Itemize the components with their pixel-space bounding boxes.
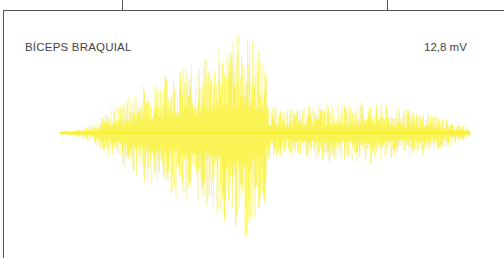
emg-trace xyxy=(0,0,504,258)
